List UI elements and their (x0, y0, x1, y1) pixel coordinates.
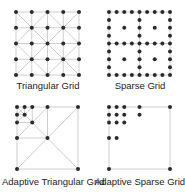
grid-node (61, 73, 65, 77)
grid-node (107, 167, 111, 171)
grid-node (15, 136, 19, 140)
grid-node (46, 42, 50, 46)
grid-node (30, 105, 34, 109)
grid-node (30, 26, 34, 30)
grid-edge (16, 12, 32, 28)
grid-node (23, 105, 27, 109)
grid-node (107, 105, 111, 109)
grid-node (30, 42, 34, 46)
grid-node (76, 105, 80, 109)
grid-node (138, 57, 142, 61)
grid-edge (16, 59, 32, 75)
grid-node (107, 57, 111, 61)
grid-node (15, 121, 19, 125)
grid-node (14, 57, 18, 61)
grid-node (168, 18, 172, 22)
grid-node (168, 49, 172, 53)
grid-node (15, 167, 19, 171)
grid-edge (32, 44, 48, 60)
grid-node (14, 10, 18, 14)
grid-node (160, 10, 164, 14)
grid-edge (16, 28, 32, 44)
grid-node (15, 105, 19, 109)
grid-edge (32, 28, 48, 44)
grid-node (77, 10, 81, 14)
grid-node (23, 113, 27, 117)
grid-node (153, 73, 157, 77)
grid-node (122, 105, 126, 109)
caption-sparse-grid: Sparse Grid (94, 80, 185, 91)
grid-node (153, 42, 157, 46)
grid-edge (48, 59, 64, 75)
grid-node (76, 167, 80, 171)
grid-node (77, 26, 81, 30)
grid-node (122, 10, 126, 14)
grid-node (77, 57, 81, 61)
grid-node (46, 57, 50, 61)
grid-node (107, 121, 111, 125)
grid-node (122, 57, 126, 61)
grid-node (46, 10, 50, 14)
grid-diagram (0, 0, 185, 192)
grid-node (30, 121, 34, 125)
grid-node (46, 105, 50, 109)
grid-node (138, 10, 142, 14)
grid-node (46, 26, 50, 30)
grid-node (153, 26, 157, 30)
panel-sparse-grid (107, 10, 172, 77)
grid-node (138, 42, 142, 46)
grid-edge (63, 28, 79, 44)
grid-node (122, 113, 126, 117)
grid-node (61, 57, 65, 61)
caption-adaptive-sparse-grid: Adaptive Sparse Grid (94, 176, 185, 187)
grid-node (61, 42, 65, 46)
grid-node (168, 105, 172, 109)
grid-edge (16, 44, 32, 60)
caption-triangular-grid: Triangular Grid (2, 80, 94, 91)
grid-node (168, 73, 172, 77)
grid-node (145, 10, 149, 14)
grid-node (160, 42, 164, 46)
grid-node (107, 34, 111, 38)
grid-node (168, 167, 172, 171)
grid-node (115, 121, 119, 125)
grid-node (168, 42, 172, 46)
grid-node (115, 105, 119, 109)
grid-edge (48, 28, 64, 44)
grid-edge (32, 12, 48, 28)
grid-node (115, 10, 119, 14)
grid-node (138, 49, 142, 53)
grid-edge (63, 59, 79, 75)
grid-node (61, 10, 65, 14)
grid-node (46, 73, 50, 77)
grid-node (14, 26, 18, 30)
grid-node (122, 73, 126, 77)
grid-node (77, 73, 81, 77)
grid-node (61, 26, 65, 30)
grid-node (160, 73, 164, 77)
grid-node (107, 65, 111, 69)
grid-node (107, 42, 111, 46)
grid-node (122, 26, 126, 30)
grid-node (14, 42, 18, 46)
panel-triangular-grid (14, 10, 81, 77)
grid-node (138, 18, 142, 22)
panel-adaptive-sparse-grid (107, 105, 172, 171)
panel-adaptive-triangular-grid (15, 105, 80, 171)
grid-node (138, 65, 142, 69)
grid-node (138, 73, 142, 77)
grid-node (130, 73, 134, 77)
grid-node (153, 57, 157, 61)
grid-node (115, 136, 119, 140)
grid-node (107, 10, 111, 14)
grid-node (153, 10, 157, 14)
grid-node (130, 42, 134, 46)
grid-node (115, 42, 119, 46)
grid-edge (48, 44, 64, 60)
grid-node (46, 136, 50, 140)
grid-node (30, 73, 34, 77)
grid-node (145, 42, 149, 46)
grid-node (107, 113, 111, 117)
grid-edge (63, 44, 79, 60)
grid-edge (48, 12, 64, 28)
